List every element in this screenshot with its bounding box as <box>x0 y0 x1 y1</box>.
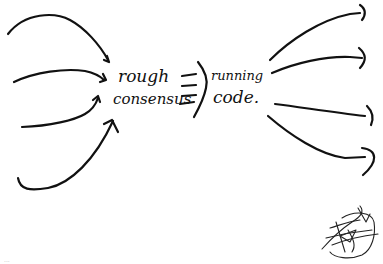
label-running: running <box>211 68 263 83</box>
outgoing-arrows <box>268 5 374 175</box>
rough-consensus-label: rough consensus <box>113 66 192 108</box>
signature-scribble-icon <box>322 206 378 258</box>
label-rough: rough <box>118 66 169 86</box>
outgoing-arrow-3 <box>275 104 373 125</box>
incoming-arrow-2 <box>14 70 106 82</box>
label-code: code. <box>213 87 259 107</box>
outgoing-arrow-1 <box>270 5 365 60</box>
outgoing-arrow-4 <box>268 116 374 175</box>
running-code-label: running code. <box>211 68 263 107</box>
diagram-canvas: rough consensus running code. <box>0 0 383 264</box>
outgoing-arrow-2 <box>272 48 365 73</box>
incoming-arrow-4 <box>18 120 118 189</box>
incoming-arrows <box>8 15 118 189</box>
incoming-arrow-1 <box>8 15 109 62</box>
incoming-arrow-3 <box>22 96 100 127</box>
corner-mark: ... <box>4 256 10 263</box>
label-consensus: consensus <box>113 90 192 108</box>
